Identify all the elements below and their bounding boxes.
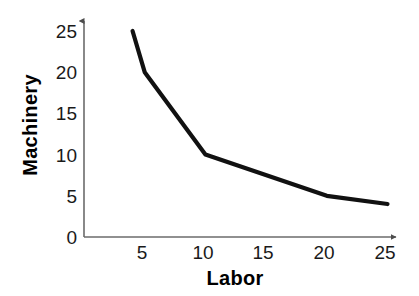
y-tick-label-25: 25	[50, 22, 77, 41]
x-tick-label-15: 15	[252, 243, 273, 262]
y-tick-label-5: 5	[50, 187, 77, 206]
y-tick-label-0: 0	[50, 228, 77, 247]
y-tick-label-10: 10	[50, 146, 77, 165]
x-tick-label-5: 5	[137, 243, 148, 262]
x-tick-label-25: 25	[374, 243, 395, 262]
y-axis-title: Machinery	[20, 74, 40, 176]
x-axis-title: Labor	[206, 268, 263, 288]
x-tick-label-20: 20	[313, 243, 334, 262]
data-series-line	[133, 31, 388, 204]
x-tick-label-10: 10	[192, 243, 213, 262]
y-tick-label-15: 15	[50, 104, 77, 123]
y-tick-label-20: 20	[50, 63, 77, 82]
chart-container: 25 20 15 10 5 0 5 10 15 20 25 Labor Mach…	[0, 0, 419, 296]
